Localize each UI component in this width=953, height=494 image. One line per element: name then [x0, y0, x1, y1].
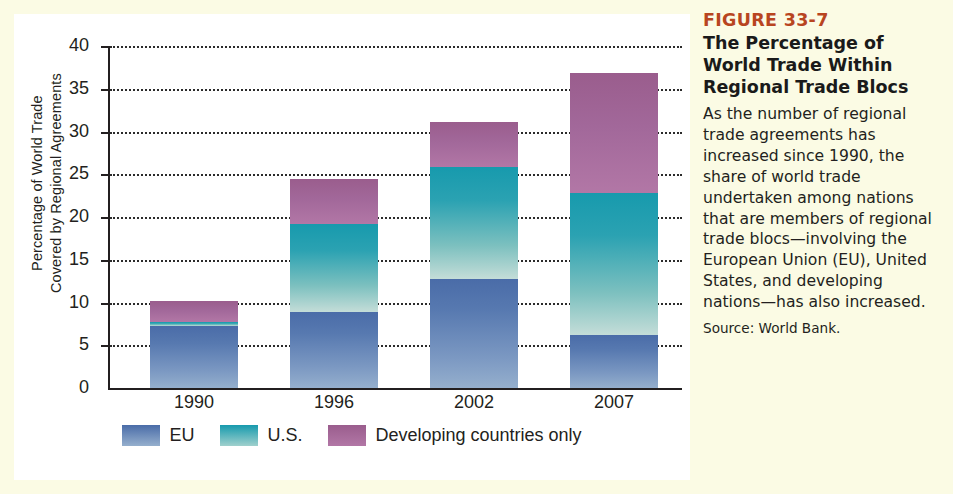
y-tick-label-20: 20: [69, 206, 89, 227]
legend-label-us: U.S.: [267, 425, 302, 446]
bar-2002: [430, 122, 518, 388]
bar-segment-eu-1990: [150, 326, 238, 388]
legend-item-eu: EU: [122, 425, 194, 446]
bar-segment-us-2007: [570, 193, 658, 335]
legend-item-developing: Developing countries only: [328, 425, 581, 446]
legend-swatch-developing: [328, 425, 366, 446]
plot-area: Percentage of World Trade Covered by Reg…: [14, 14, 690, 414]
caption-panel: FIGURE 33-7 The Percentage of World Trad…: [703, 10, 943, 490]
y-tick-label-0: 0: [79, 377, 89, 398]
bar-segment-dev-2007: [570, 73, 658, 193]
y-tick-label-35: 35: [69, 78, 89, 99]
figure-33-7: Percentage of World Trade Covered by Reg…: [0, 0, 953, 494]
bar-series-group: [108, 46, 668, 388]
legend-item-us: U.S.: [220, 425, 302, 446]
y-tick-label-25: 25: [69, 164, 89, 185]
legend-label-developing: Developing countries only: [375, 425, 581, 446]
bar-segment-us-1990: [150, 322, 238, 325]
chart-panel: Percentage of World Trade Covered by Reg…: [14, 14, 690, 480]
bar-2007: [570, 73, 658, 388]
y-tick-label-15: 15: [69, 249, 89, 270]
legend-label-eu: EU: [169, 425, 194, 446]
bar-segment-dev-2002: [430, 122, 518, 167]
bar-1990: [150, 301, 238, 388]
y-tick-label-40: 40: [69, 35, 89, 56]
bar-segment-eu-1996: [290, 312, 378, 388]
legend-swatch-us: [220, 425, 258, 446]
bar-segment-eu-2002: [430, 279, 518, 388]
x-axis-label-1990: 1990: [150, 392, 238, 413]
bar-segment-us-1996: [290, 224, 378, 312]
bar-segment-eu-2007: [570, 335, 658, 388]
y-tick-label-30: 30: [69, 121, 89, 142]
y-tick-label-5: 5: [79, 335, 89, 356]
bar-segment-dev-1996: [290, 179, 378, 224]
bar-1996: [290, 179, 378, 388]
bar-segment-dev-1990: [150, 301, 238, 322]
x-axis-line: [108, 388, 682, 390]
plot-frame: 40 35 30 25 20 15 10 5 0 199019962002200…: [108, 46, 668, 388]
figure-body-text: As the number of regional trade agreemen…: [703, 104, 943, 313]
x-axis-label-2007: 2007: [570, 392, 658, 413]
figure-number: FIGURE 33-7: [703, 10, 943, 30]
y-tick-label-10: 10: [69, 292, 89, 313]
bar-segment-us-2002: [430, 167, 518, 279]
x-axis-label-1996: 1996: [290, 392, 378, 413]
chart-legend: EU U.S. Developing countries only: [14, 418, 690, 452]
legend-swatch-eu: [122, 425, 160, 446]
figure-title: The Percentage of World Trade Within Reg…: [703, 32, 943, 98]
figure-source: Source: World Bank.: [703, 320, 943, 338]
y-axis-label: Percentage of World Trade Covered by Reg…: [28, 58, 66, 308]
x-axis-label-2002: 2002: [430, 392, 518, 413]
